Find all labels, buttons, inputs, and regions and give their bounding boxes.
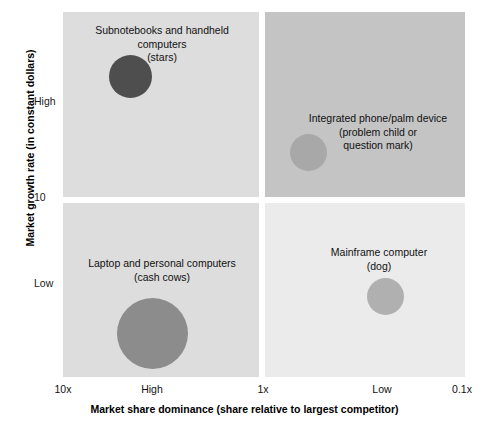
x-axis-tick-high: High — [122, 383, 182, 395]
quadrant-label-stars: Subnotebooks and handheld computers (sta… — [67, 24, 257, 65]
x-axis-tick-1x: 1x — [233, 383, 293, 395]
quadrant-label-cash-cows: Laptop and personal computers (cash cows… — [67, 257, 257, 284]
quadrant-dogs — [265, 203, 465, 377]
bubble-mainframe-computer-dog[interactable] — [367, 278, 404, 315]
bcg-matrix-plot: Subnotebooks and handheld computers (sta… — [63, 12, 465, 377]
x-axis-tick-10x: 10x — [33, 383, 93, 395]
x-axis-title: Market share dominance (share relative t… — [0, 403, 489, 415]
y-axis-tick-10: 10 — [34, 191, 46, 203]
bubble-laptop-personal-computers-cash-cows[interactable] — [117, 298, 188, 369]
quadrant-question-mark — [265, 12, 465, 197]
x-axis-tick-low: Low — [352, 383, 412, 395]
y-axis-title: Market growth rate (in constant dollars) — [24, 18, 36, 278]
x-axis-tick-0.1x: 0.1x — [432, 383, 489, 395]
y-axis-tick-high: High — [34, 95, 56, 107]
y-axis-tick-low: Low — [34, 277, 53, 289]
quadrant-label-dog: Mainframe computer (dog) — [295, 246, 463, 273]
quadrant-label-question-mark: Integrated phone/palm device (problem ch… — [291, 112, 465, 153]
